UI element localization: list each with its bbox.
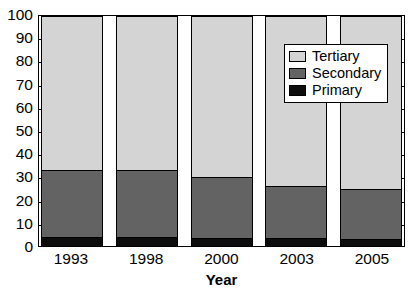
chart-legend: TertiarySecondaryPrimary xyxy=(284,44,388,103)
bar-segment-tertiary xyxy=(116,16,178,170)
y-axis-tick-label: 30 xyxy=(0,170,33,186)
y-axis-tick-label: 0 xyxy=(0,239,33,255)
x-axis-tick-label: 1998 xyxy=(115,250,177,267)
legend-item: Tertiary xyxy=(289,48,381,65)
stacked-bar-chart: 1009080706050403020100 TertiarySecondary… xyxy=(0,0,413,299)
bar-segment-primary xyxy=(41,237,103,246)
y-axis-tick-label: 90 xyxy=(0,30,33,46)
bar-column xyxy=(191,16,253,246)
legend-swatch-icon xyxy=(289,51,306,62)
bar-segment-primary xyxy=(191,238,253,246)
bar-segment-primary xyxy=(340,239,402,246)
bar-segment-tertiary xyxy=(191,16,253,177)
bar-segment-secondary xyxy=(340,189,402,240)
legend-swatch-icon xyxy=(289,85,306,96)
y-axis-tick-label: 40 xyxy=(0,146,33,162)
y-axis-tick-label: 50 xyxy=(0,123,33,139)
bar-segment-secondary xyxy=(116,170,178,237)
y-axis-tick-label: 20 xyxy=(0,193,33,209)
legend-label: Secondary xyxy=(312,66,381,81)
x-axis-title: Year xyxy=(38,272,405,288)
bar-column xyxy=(116,16,178,246)
y-axis-tick-label: 100 xyxy=(0,7,33,23)
legend-label: Tertiary xyxy=(312,49,360,64)
y-axis-tick-label: 80 xyxy=(0,54,33,70)
y-axis-tick-label: 60 xyxy=(0,100,33,116)
bar-segment-tertiary xyxy=(41,16,103,170)
bar-segment-secondary xyxy=(41,170,103,237)
x-axis-tick-label: 2003 xyxy=(266,250,328,267)
x-axis-tick-label: 2000 xyxy=(191,250,253,267)
legend-swatch-icon xyxy=(289,68,306,79)
bar-segment-secondary xyxy=(191,177,253,238)
bar-segment-secondary xyxy=(265,186,327,238)
y-axis-tick-label: 10 xyxy=(0,216,33,232)
bar-segment-primary xyxy=(116,237,178,246)
y-axis-tick-label: 70 xyxy=(0,77,33,93)
bar-column xyxy=(41,16,103,246)
legend-item: Secondary xyxy=(289,65,381,82)
x-axis-labels: 19931998200020032005 xyxy=(38,250,405,267)
bar-segment-primary xyxy=(265,238,327,246)
legend-label: Primary xyxy=(312,83,362,98)
x-axis-tick-label: 1993 xyxy=(40,250,102,267)
legend-item: Primary xyxy=(289,82,381,99)
x-axis-tick-label: 2005 xyxy=(341,250,403,267)
